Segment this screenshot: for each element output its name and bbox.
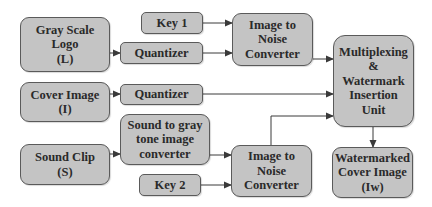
node-label-line: (L) bbox=[57, 52, 74, 67]
node-label-line: Quantizer bbox=[134, 87, 188, 102]
node-label-line: Image to bbox=[248, 149, 295, 164]
node-label-line: Watermarked bbox=[335, 151, 410, 166]
watermarked-cover-image-node: Watermarked Cover Image (Iw) bbox=[332, 147, 413, 198]
node-label-line: Key 2 bbox=[155, 178, 186, 193]
gray-scale-logo-node: Gray Scale Logo (L) bbox=[20, 17, 110, 72]
quantizer-2-node: Quantizer bbox=[120, 84, 203, 105]
node-label-line: Cover Image bbox=[338, 165, 407, 180]
node-label-line: Sound Clip bbox=[35, 150, 95, 165]
node-label-line: Insertion bbox=[349, 88, 398, 103]
node-label-line: Converter bbox=[244, 178, 299, 193]
key-1-node: Key 1 bbox=[141, 12, 203, 34]
image-to-noise-converter-1-node: Image to Noise Converter bbox=[232, 13, 313, 66]
node-label-line: Logo bbox=[51, 37, 78, 52]
sound-clip-node: Sound Clip (S) bbox=[20, 144, 110, 185]
node-label-line: Noise bbox=[257, 164, 286, 179]
node-label-line: Image to bbox=[249, 18, 296, 33]
node-label-line: Converter bbox=[245, 47, 300, 62]
node-label-line: Sound to gray bbox=[127, 118, 202, 133]
node-label-line: converter bbox=[139, 147, 190, 162]
node-label-line: tone image bbox=[136, 132, 194, 147]
quantizer-1-node: Quantizer bbox=[120, 42, 203, 64]
node-label-line: Noise bbox=[258, 32, 287, 47]
node-label-line: Gray Scale bbox=[36, 23, 95, 38]
image-to-noise-converter-2-node: Image to Noise Converter bbox=[231, 145, 312, 197]
node-label-line: Cover Image bbox=[31, 88, 100, 103]
key-2-node: Key 2 bbox=[139, 174, 201, 196]
sound-to-gray-tone-converter-node: Sound to gray tone image converter bbox=[120, 114, 210, 165]
cover-image-node: Cover Image (I) bbox=[20, 82, 110, 122]
node-label-line: Unit bbox=[362, 103, 386, 118]
node-label-line: (S) bbox=[57, 165, 72, 180]
node-label-line: (Iw) bbox=[361, 180, 383, 195]
node-label-line: Quantizer bbox=[134, 46, 188, 61]
node-label-line: Multiplexing bbox=[339, 45, 408, 60]
node-label-line: & bbox=[368, 59, 378, 74]
node-label-line: Watermark bbox=[342, 74, 404, 89]
node-label-line: Key 1 bbox=[157, 16, 188, 31]
node-label-line: (I) bbox=[58, 102, 71, 117]
multiplexing-watermark-insertion-unit-node: Multiplexing & Watermark Insertion Unit bbox=[333, 35, 414, 127]
